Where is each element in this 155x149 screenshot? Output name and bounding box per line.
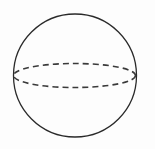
- sphere-outline: [14, 14, 137, 137]
- sphere-svg: [0, 0, 155, 149]
- equator-dashed-ellipse: [14, 64, 136, 88]
- sphere-diagram: [0, 0, 155, 149]
